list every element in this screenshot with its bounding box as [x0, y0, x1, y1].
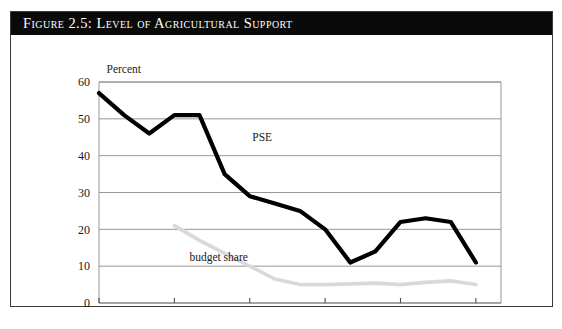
series-label: PSE [252, 131, 272, 143]
chart-plot-area: 0102030405060 198619891992199519982001 P… [11, 35, 552, 307]
figure-title-bar: Figure 2.5: Level of Agricultural Suppor… [11, 12, 552, 35]
y-axis-tick-label: 60 [78, 75, 90, 89]
figure-title: Figure 2.5: Level of Agricultural Suppor… [23, 15, 293, 32]
series-label: budget share [189, 251, 247, 264]
y-axis-tick-label: 40 [78, 149, 90, 163]
line-chart: 0102030405060 198619891992199519982001 P… [11, 35, 554, 307]
y-axis-tick-label: 0 [84, 296, 90, 307]
y-axis-tick-label: 10 [78, 259, 90, 273]
y-axis-tick-label: 50 [78, 112, 90, 126]
axis-unit-label: Percent [107, 63, 142, 75]
figure-container: Figure 2.5: Level of Agricultural Suppor… [10, 11, 553, 307]
gridlines-group [99, 82, 501, 266]
y-axis-tick-label: 20 [78, 223, 90, 237]
data-series-group [99, 93, 476, 285]
y-axis-tick-label: 30 [78, 186, 90, 200]
y-axis-ticks-group: 0102030405060 [78, 75, 90, 307]
